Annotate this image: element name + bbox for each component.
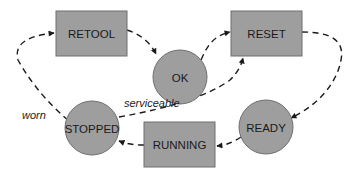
state-diagram: RETOOL OK RESET READY RUNNING STOPPED wo…: [0, 0, 352, 172]
edge-label-serviceable: serviceable: [124, 97, 180, 109]
retool-label: RETOOL: [68, 28, 116, 40]
node-stopped: STOPPED: [65, 101, 120, 155]
stopped-label: STOPPED: [65, 123, 120, 135]
edge-running-to-stopped: [119, 141, 144, 145]
node-reset: RESET: [231, 11, 302, 56]
ready-label: READY: [246, 122, 286, 134]
node-ok: OK: [153, 50, 207, 104]
ok-label: OK: [172, 72, 189, 84]
node-running: RUNNING: [144, 122, 215, 167]
running-label: RUNNING: [153, 139, 207, 151]
node-ready: READY: [239, 100, 293, 154]
node-retool: RETOOL: [56, 11, 127, 56]
edge-retool-to-ok: [127, 30, 156, 54]
edge-label-worn: worn: [22, 109, 46, 121]
edge-ok-to-reset: [201, 32, 230, 60]
edge-ready-to-running: [217, 137, 241, 146]
reset-label: RESET: [247, 28, 285, 40]
